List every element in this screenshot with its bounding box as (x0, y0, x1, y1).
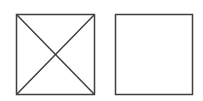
empty-square (116, 15, 193, 95)
crossed-square (17, 15, 95, 95)
empty-square-outline (116, 15, 193, 95)
diagram-canvas (0, 0, 203, 101)
